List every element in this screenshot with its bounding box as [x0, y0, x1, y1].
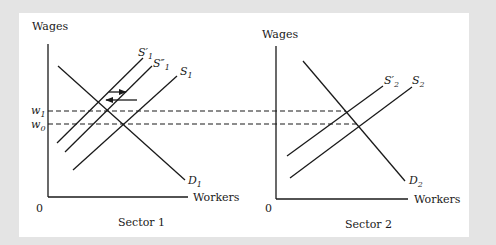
- supply-curve-s2: [290, 87, 412, 178]
- sector2-title: Sector 2: [345, 218, 392, 231]
- sector1-y-axis-label: Wages: [32, 20, 68, 33]
- sector1-x-axis-label: Workers: [193, 191, 240, 204]
- labor-market-diagram: Wages Workers 0 Sector 1 w1 w0 D1 S′1 S″…: [0, 0, 496, 245]
- sector2-y-axis-label: Wages: [262, 28, 298, 41]
- supply-curve-s2-prime: [287, 86, 383, 156]
- s2-label: S2: [412, 74, 425, 89]
- w1-label: w1: [31, 104, 46, 119]
- sector2-chart: Wages Workers 0 Sector 2 D2 S′2 S2: [262, 28, 461, 231]
- sector2-x-axis-label: Workers: [414, 193, 461, 206]
- w0-label: w0: [31, 118, 46, 133]
- s1-double-prime-label: S″1: [153, 57, 170, 72]
- supply-curve-s1: [73, 76, 177, 170]
- s1-prime-label: S′1: [138, 46, 153, 61]
- sector2-origin-label: 0: [265, 202, 272, 215]
- d2-label: D2: [408, 174, 423, 189]
- d1-label: D1: [187, 174, 202, 189]
- sector1-title: Sector 1: [118, 216, 165, 229]
- sector1-origin-label: 0: [36, 202, 43, 215]
- s1-label: S1: [180, 65, 193, 80]
- s2-prime-label: S′2: [384, 74, 399, 89]
